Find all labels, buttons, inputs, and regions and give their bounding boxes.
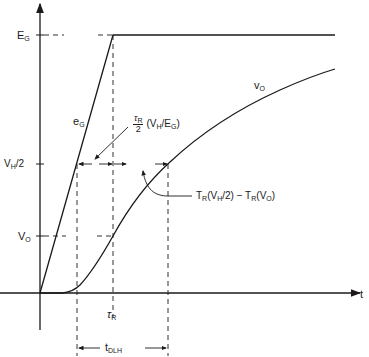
- half-rise-fraction: τR 2: [133, 114, 143, 134]
- delay-diff-label: TR(VH/2) − TR(VO): [196, 191, 275, 202]
- output-curve-sub: O: [260, 85, 265, 92]
- half-rise-rest-c: /E: [162, 118, 171, 129]
- vo-level-sub: O: [25, 236, 30, 243]
- tau-r-sub: R: [111, 314, 116, 321]
- tdlh-label: tDLH: [105, 342, 122, 354]
- timing-diagram: [0, 0, 369, 357]
- delay-diff-leader: [143, 171, 192, 196]
- eg-level-sub: G: [24, 35, 29, 42]
- half-rise-label: τR 2 (VH/EG): [133, 114, 180, 134]
- tdlh-sub: DLH: [108, 347, 122, 354]
- half-rise-rest-e: ): [176, 118, 179, 129]
- half-rise-rest-a: (V: [146, 118, 156, 129]
- input-curve-sub: G: [79, 121, 84, 128]
- vh2-level-main: V: [4, 158, 11, 169]
- input-curve-label: eG: [73, 116, 85, 128]
- vh2-level-label: VH/2: [4, 159, 24, 170]
- vh2-level-rest: /2: [16, 158, 24, 169]
- half-rise-leader: [95, 127, 128, 159]
- delay-diff-e: /2) − T: [222, 190, 251, 201]
- output-curve-label: vO: [254, 80, 265, 92]
- vo-level-label: VO: [18, 231, 31, 243]
- x-axis-label: t: [360, 289, 363, 300]
- half-rise-num-sub: R: [137, 117, 142, 124]
- delay-diff-g: (V: [256, 190, 266, 201]
- delay-diff-i: ): [272, 190, 275, 201]
- delay-diff-c: (V: [207, 190, 217, 201]
- tau-r-label: τR: [107, 309, 116, 321]
- eg-level-label: EG: [17, 30, 30, 42]
- half-rise-den: 2: [136, 125, 141, 134]
- output-curve: [40, 69, 335, 293]
